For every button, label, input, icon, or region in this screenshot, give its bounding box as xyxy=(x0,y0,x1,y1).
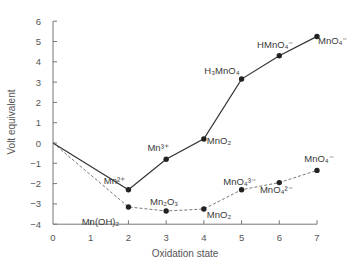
x-tick-label: 1 xyxy=(88,232,93,243)
x-tick-label: 7 xyxy=(314,232,319,243)
species-label: MnO₂ xyxy=(207,209,232,220)
y-tick-label: 1 xyxy=(36,117,41,128)
x-tick-label: 2 xyxy=(126,232,131,243)
species-label: MnO₂ xyxy=(207,135,232,146)
x-tick-label: 3 xyxy=(163,232,168,243)
y-tick-label: −2 xyxy=(30,178,41,189)
species-label: Mn²⁺ xyxy=(104,175,125,186)
x-axis-title: Oxidation state xyxy=(152,248,219,259)
species-label: HMnO₄⁻ xyxy=(257,39,293,50)
data-point xyxy=(163,157,168,162)
data-point xyxy=(239,187,244,192)
frost-diagram-chart: 6543210−1−2−3−401234567 Mn²⁺Mn³⁺MnO₂H₃Mn… xyxy=(0,0,353,274)
species-label: H₃MnO₄ xyxy=(204,65,239,76)
data-point xyxy=(126,204,131,209)
y-tick-label: 0 xyxy=(36,138,41,149)
y-tick-label: 6 xyxy=(36,16,41,27)
data-point xyxy=(163,208,168,213)
y-tick-label: 4 xyxy=(36,56,41,67)
x-tick-label: 4 xyxy=(201,232,206,243)
data-point xyxy=(201,136,206,141)
y-tick-label: −4 xyxy=(30,219,41,230)
y-tick-label: 3 xyxy=(36,77,41,88)
species-label: MnO₄⁻ xyxy=(318,35,347,46)
series-line-basic xyxy=(53,143,317,211)
y-tick-label: −1 xyxy=(30,158,41,169)
species-label: Mn₂O₃ xyxy=(150,196,178,207)
species-label: MnO₄³⁻ xyxy=(223,176,256,187)
data-point xyxy=(201,206,206,211)
data-point xyxy=(126,187,131,192)
x-tick-label: 6 xyxy=(277,232,282,243)
data-point xyxy=(314,168,319,173)
y-tick-label: 5 xyxy=(36,36,41,47)
y-tick-label: −3 xyxy=(30,198,41,209)
axes: 6543210−1−2−3−401234567 xyxy=(30,16,319,244)
data-point xyxy=(239,76,244,81)
species-label: Mn³⁺ xyxy=(147,142,168,153)
x-tick-label: 5 xyxy=(239,232,244,243)
y-tick-label: 2 xyxy=(36,97,41,108)
x-tick-label: 0 xyxy=(50,232,55,243)
data-point xyxy=(277,53,282,58)
point-labels: Mn²⁺Mn³⁺MnO₂H₃MnO₄HMnO₄⁻MnO₄⁻Mn(OH)₂Mn₂O… xyxy=(82,35,348,227)
species-label: MnO₄²⁻ xyxy=(260,184,293,195)
series-line-acidic xyxy=(53,36,317,189)
species-label: Mn(OH)₂ xyxy=(82,216,120,227)
y-axis-title: Volt equivalent xyxy=(6,89,17,154)
species-label: MnO₄⁻ xyxy=(304,153,333,164)
